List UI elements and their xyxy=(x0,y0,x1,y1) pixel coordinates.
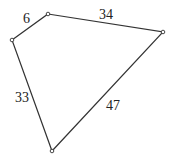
quadrilateral-diagram: 6 34 47 33 xyxy=(0,0,175,165)
vertex-left xyxy=(10,38,14,42)
side-label-left-top: 6 xyxy=(23,11,30,26)
quadrilateral-shape xyxy=(12,14,163,151)
vertex-bottom xyxy=(50,149,54,153)
vertex-right xyxy=(161,30,165,34)
side-label-bottom-left: 33 xyxy=(15,90,29,105)
side-label-right-bottom: 47 xyxy=(106,98,120,113)
side-label-top-right: 34 xyxy=(99,7,113,22)
vertex-top xyxy=(46,12,50,16)
